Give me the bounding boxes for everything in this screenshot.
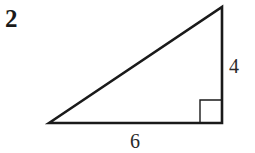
side-label-horizontal: 6 [130,130,140,152]
side-label-vertical: 4 [229,55,239,77]
right-angle-marker [200,100,222,123]
right-triangle-diagram: 4 6 [0,0,255,153]
triangle [49,7,222,123]
